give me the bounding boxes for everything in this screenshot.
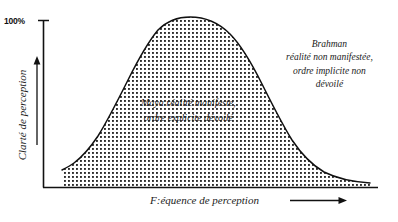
maya-annotation-line-1: Maya réalité manifeste, (141, 96, 236, 111)
brahman-annotation-line-4: dévoilé (286, 78, 373, 91)
brahman-annotation-line-3: ordre implicite non (286, 65, 373, 78)
y-axis-direction-arrow (34, 56, 41, 145)
maya-annotation-line-2: ordre explicite dévoilé (141, 111, 236, 126)
brahman-annotation: Brahman réalité non manifestée, ordre im… (286, 38, 373, 92)
figure-container: 100% Clarté de perception F:équence de p… (0, 0, 398, 222)
x-axis-direction-arrow (290, 197, 347, 204)
maya-annotation: Maya réalité manifeste, ordre explicite … (141, 96, 236, 125)
x-axis-title: F:équence de perception (150, 193, 259, 207)
y-axis-title: Clarté de perception (15, 60, 29, 170)
brahman-annotation-line-2: réalité non manifestée, (286, 51, 373, 64)
brahman-annotation-line-1: Brahman (286, 38, 373, 51)
y-axis-max-label: 100% (4, 16, 25, 27)
